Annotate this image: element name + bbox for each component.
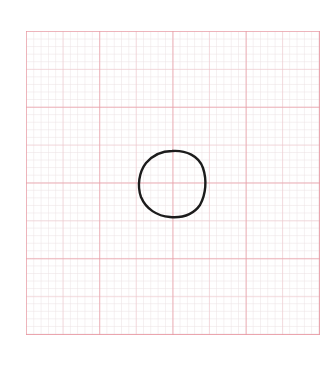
- hand-drawn-circle: [0, 0, 336, 366]
- circle-stroke-icon: [139, 151, 205, 217]
